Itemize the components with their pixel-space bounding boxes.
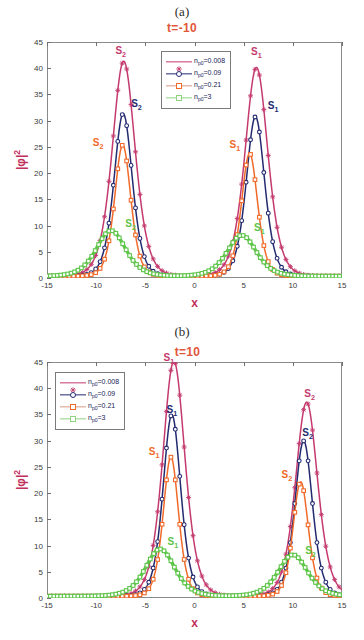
annotation-symbol: S [93,137,100,148]
x-tick-label: 0 [192,278,196,290]
x-tick-mark [195,362,196,366]
legend-marker-star-icon [176,59,183,66]
y-tick-label: 40 [34,64,47,73]
y-tick-label: 25 [34,142,47,151]
legend-marker-star-icon [70,380,77,387]
peak-annotation-S1: S1 [229,139,240,153]
y-tick-mark [47,173,51,174]
legend-marker-circle-icon [176,71,182,77]
y-tick-mark [47,199,51,200]
legend-value: =0.09 [204,69,222,76]
legend-value: =0.008 [204,57,226,64]
y-tick-label: 45 [34,38,47,47]
legend-line-sample [166,68,192,80]
y-tick-mark [47,121,51,122]
peak-annotation-S1: S1 [167,404,178,418]
y-tick-label: 15 [34,515,47,524]
x-tick-mark [195,42,196,46]
x-tick-mark [145,362,146,366]
legend-label: np0=3 [86,414,106,423]
peak-annotation-S1: S1 [164,352,175,366]
peak-annotation-S2: S2 [131,98,142,112]
annotation-symbol: S [164,352,171,363]
annotation-symbol: S [254,222,261,233]
annotation-symbol: S [115,45,122,56]
peak-annotation-S2: S2 [302,427,313,441]
x-tick-mark [47,42,48,46]
legend-label: np0=0.008 [192,57,225,66]
annotation-symbol: S [167,404,174,415]
panel-b-title: t=10 [40,345,335,359]
x-tick-mark [96,42,97,46]
legend-line-sample [166,56,192,68]
x-tick-label: 5 [241,598,245,610]
panel-b-legend[interactable]: np0=0.008np0=0.09np0=0.21np0=3 [55,372,125,430]
y-tick-label: 10 [34,541,47,550]
annotation-symbol: S [168,536,175,547]
annotation-subscript: 2 [311,393,315,402]
peak-annotation-S1: S1 [168,536,179,550]
curve-n_p0=0.09 [47,114,342,277]
y-tick-mark [47,493,51,494]
y-tick-label: 30 [34,116,47,125]
ylabel-bar-right: | [14,155,28,158]
annotation-subscript: 1 [156,451,160,460]
x-tick-label: -10 [90,598,102,610]
legend-row-0[interactable]: np0=0.008 [166,56,225,68]
y-tick-label: 5 [39,567,47,576]
y-tick-label: 5 [39,247,47,256]
peak-annotation-S2: S2 [115,45,126,59]
panel-b: (b) t=10 |φ|2 051015202530354045-15-10-5… [0,320,364,640]
x-tick-mark [293,362,294,366]
annotation-symbol: S [125,218,132,229]
y-tick-mark [47,546,51,547]
y-tick-mark [47,414,51,415]
panel-a-title: t=-10 [0,21,364,35]
legend-line-sample [166,80,192,92]
legend-label: np0=0.09 [86,390,115,399]
legend-value: =0.21 [98,402,116,409]
x-tick-label: -10 [90,278,102,290]
legend-line-sample [60,377,86,389]
legend-row-2[interactable]: np0=0.21 [60,401,119,413]
annotation-subscript: 1 [258,51,262,60]
y-tick-label: 35 [34,410,47,419]
legend-marker-square-icon [70,404,76,410]
x-tick-mark [244,42,245,46]
legend-line-sample [60,389,86,401]
annotation-symbol: S [251,46,258,57]
legend-line-sample [60,401,86,413]
annotation-subscript: 1 [274,105,278,114]
annotation-subscript: 1 [261,227,265,236]
legend-value: =0.09 [98,390,116,397]
ylabel-phi: φ [14,478,28,487]
legend-row-3[interactable]: np0=3 [166,92,225,104]
legend-row-1[interactable]: np0=0.09 [60,389,119,401]
markers-n_p0=0.09 [47,414,341,598]
legend-label: np0=0.21 [192,81,221,90]
peak-annotation-S1: S1 [149,446,160,460]
legend-row-3[interactable]: np0=3 [60,413,119,425]
x-tick-label: 5 [241,278,245,290]
x-tick-label: 10 [288,278,297,290]
panel-a-legend[interactable]: np0=0.008np0=0.09np0=0.21np0=3 [161,51,231,109]
legend-row-2[interactable]: np0=0.21 [166,80,225,92]
x-tick-mark [293,42,294,46]
y-tick-label: 30 [34,436,47,445]
legend-row-0[interactable]: np0=0.008 [60,377,119,389]
x-tick-label: -15 [41,278,53,290]
annotation-symbol: S [302,427,309,438]
y-tick-mark [47,147,51,148]
annotation-symbol: S [268,100,275,111]
panel-a-xlabel: x [47,296,342,310]
legend-marker-circle-icon [70,392,76,398]
x-tick-label: 0 [192,598,196,610]
x-tick-label: 15 [338,598,347,610]
annotation-symbol: S [304,388,311,399]
panel-b-plot-area: 051015202530354045-15-10-5051015 S1S1S1S… [47,362,342,598]
y-tick-mark [47,94,51,95]
annotation-subscript: 1 [174,541,178,550]
x-tick-label: -5 [142,278,149,290]
legend-row-1[interactable]: np0=0.09 [166,68,225,80]
y-tick-label: 15 [34,195,47,204]
